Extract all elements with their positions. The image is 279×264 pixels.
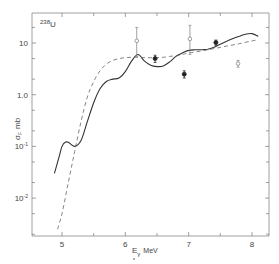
x-tick-label: 8 <box>250 240 255 249</box>
filled-data-point <box>182 72 186 76</box>
y-axis-label: σFmb <box>13 117 23 140</box>
x-label-subscript: γ <box>137 251 140 257</box>
y-tick-label: 10-2 <box>15 193 29 203</box>
solid-curve <box>54 34 258 174</box>
filled-data-point <box>153 57 157 61</box>
fission-cross-section-chart: 5678 101.010-110-2 238U σFmb EγMeV <box>0 0 279 264</box>
x-tick-label: 5 <box>60 240 65 249</box>
open-data-point <box>188 37 192 41</box>
open-data-point <box>135 39 139 43</box>
svg-text:σFmb: σFmb <box>13 117 23 140</box>
y-label-unit: mb <box>13 117 22 129</box>
stray-dot <box>133 258 135 260</box>
y-tick-label: 1.0 <box>17 91 29 100</box>
plot-frame <box>32 13 269 236</box>
x-label-unit: MeV <box>143 247 158 254</box>
y-tick-label: 10-1 <box>15 141 29 151</box>
open-data-point <box>236 62 240 66</box>
dashed-curve <box>58 40 259 230</box>
x-axis-ticks: 5678 <box>60 13 255 249</box>
y-tick-label: 10 <box>19 39 28 48</box>
isotope-symbol: U <box>50 20 56 29</box>
x-tick-label: 6 <box>123 240 128 249</box>
y-label-subscript: F <box>17 132 23 135</box>
isotope-annotation: 238U <box>40 19 56 29</box>
filled-data-point <box>214 41 218 45</box>
plot-border <box>32 13 269 236</box>
x-tick-label: 7 <box>186 240 191 249</box>
data-series <box>54 25 258 229</box>
x-axis-label: EγMeV <box>132 246 158 257</box>
